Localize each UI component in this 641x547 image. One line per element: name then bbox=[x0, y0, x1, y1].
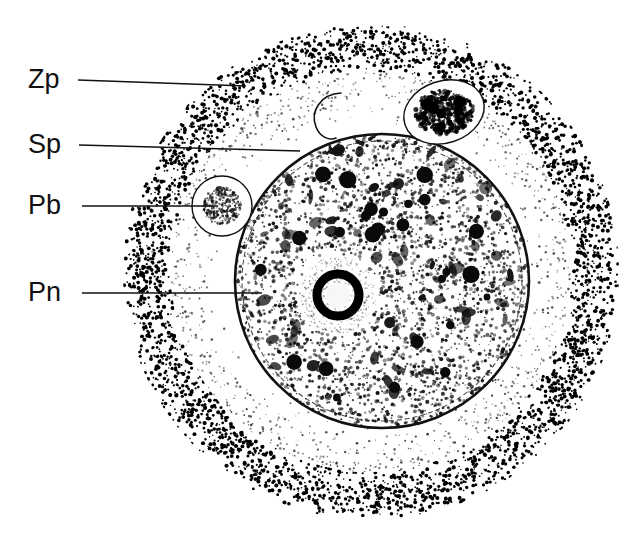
pronucleus bbox=[299, 256, 377, 334]
oocyte-body bbox=[235, 133, 531, 429]
figure-oocyte-diagram: Zp Sp Pb Pn bbox=[0, 0, 641, 547]
label-pb: Pb bbox=[28, 192, 61, 219]
oocyte-illustration bbox=[0, 0, 641, 547]
label-zp: Zp bbox=[28, 66, 60, 93]
label-pn: Pn bbox=[28, 279, 61, 306]
label-sp: Sp bbox=[28, 131, 61, 158]
